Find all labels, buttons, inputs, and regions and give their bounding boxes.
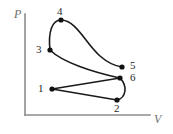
segment-4-5 — [61, 20, 122, 67]
state-label-5: 5 — [130, 60, 136, 71]
segment-3-6 — [50, 50, 120, 78]
state-label-1: 1 — [38, 83, 44, 94]
segment-3-4 — [49, 20, 61, 50]
state-label-6: 6 — [130, 72, 136, 83]
state-label-3: 3 — [36, 44, 42, 55]
y-axis-label: P — [14, 8, 21, 20]
segment-6-1 — [52, 78, 120, 89]
state-point-4 — [58, 17, 63, 22]
pv-diagram-figure: P V 1 2 3 4 5 6 — [0, 0, 173, 134]
segment-1-2 — [52, 89, 117, 100]
x-axis-label: V — [154, 113, 161, 125]
segment-2-6 — [117, 78, 125, 100]
state-point-1 — [49, 86, 54, 91]
state-label-2: 2 — [114, 103, 120, 114]
state-point-5 — [119, 64, 124, 69]
state-point-6 — [117, 75, 122, 80]
pv-diagram-canvas — [0, 0, 173, 134]
state-point-3 — [47, 47, 52, 52]
cycle-paths-group — [49, 20, 125, 100]
state-label-4: 4 — [57, 6, 63, 17]
